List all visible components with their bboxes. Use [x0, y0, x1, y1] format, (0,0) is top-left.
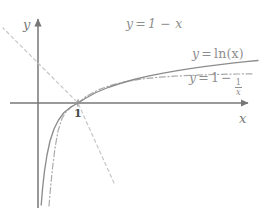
annotation-reciprocal-lhs: y	[189, 70, 196, 85]
x-tick-label-one: 1	[74, 108, 82, 119]
annotation-linear-eq: =	[135, 16, 146, 31]
annotation-reciprocal: y=1−1x	[189, 72, 242, 96]
fraction-numerator: 1	[235, 78, 242, 86]
annotation-reciprocal-one: 1	[211, 70, 219, 85]
annotation-linear-lhs: y	[126, 16, 133, 31]
plot-area	[0, 0, 261, 219]
annotation-reciprocal-minus: −	[221, 70, 232, 85]
fraction-one-over-x: 1x	[235, 78, 242, 96]
annotation-log-lhs: y	[192, 46, 199, 61]
annotation-log-rhs: ln(x)	[214, 46, 244, 61]
annotation-log-eq: =	[201, 46, 212, 61]
y-axis-label: y	[23, 18, 30, 31]
curve-linear	[3, 28, 114, 183]
x-axis-label: x	[239, 112, 246, 125]
figure-canvas: y x 1 y=1 − x y=ln(x) y=1−1x	[0, 0, 261, 219]
annotation-log: y=ln(x)	[192, 48, 244, 61]
annotation-linear: y=1 − x	[126, 18, 182, 31]
annotation-reciprocal-eq: =	[198, 70, 209, 85]
annotation-linear-rhs: 1 − x	[148, 16, 182, 31]
fraction-denominator: x	[235, 87, 242, 96]
